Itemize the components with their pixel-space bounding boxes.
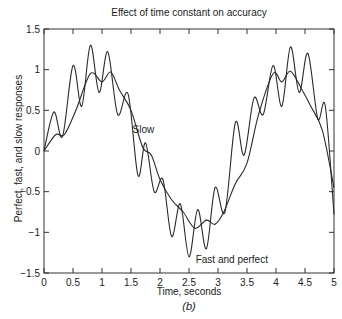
svg-text:−1: −1	[29, 227, 41, 238]
svg-text:−1.5: −1.5	[20, 268, 40, 279]
x-axis-label: Time, seconds	[44, 286, 334, 297]
svg-text:1.5: 1.5	[26, 24, 40, 35]
annotation-slow: Slow	[133, 124, 155, 135]
chart-canvas: 00.511.522.533.544.551.510.50−0.5−1−1.5	[0, 0, 342, 319]
series-fast-and-perfect	[44, 45, 334, 257]
data-series	[44, 45, 334, 257]
series-slow	[44, 71, 334, 228]
y-axis-label: Perfect, fast, and slow responses	[13, 69, 24, 229]
svg-text:0.5: 0.5	[26, 105, 40, 116]
axis-tick-labels: 00.511.522.533.544.551.510.50−0.5−1−1.5	[20, 24, 337, 289]
svg-text:0: 0	[34, 146, 40, 157]
annotation-fast-and-perfect: Fast and perfect	[196, 254, 268, 265]
chart-title: Effect of time constant on accuracy	[44, 7, 334, 18]
figure-caption: (b)	[44, 300, 334, 312]
svg-text:1: 1	[34, 64, 40, 75]
